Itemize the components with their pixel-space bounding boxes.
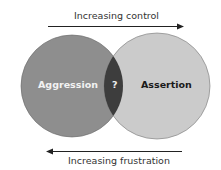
- increasing-control-arrow: [48, 24, 184, 30]
- overlap-label: ?: [112, 79, 118, 90]
- bottom-arrow-label: Increasing frustration: [68, 155, 170, 166]
- aggression-label: Aggression: [38, 79, 98, 90]
- top-arrow-label: Increasing control: [74, 10, 159, 21]
- increasing-frustration-arrow: [46, 149, 182, 155]
- assertion-label: Assertion: [141, 79, 192, 90]
